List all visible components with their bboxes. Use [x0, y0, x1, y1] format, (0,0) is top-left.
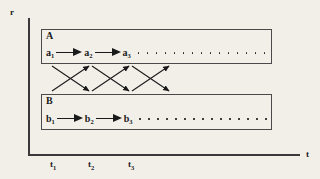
- arrow-b1-b2-icon: [57, 114, 83, 124]
- horizontal-axis-label: t: [306, 150, 309, 159]
- tick-label-t1: t1: [50, 160, 56, 171]
- arrow-a1-a2-icon: [56, 48, 82, 58]
- node-b3: b3: [124, 114, 133, 124]
- cross-link-a1-b2: [52, 66, 89, 91]
- ellipsis-dot: [165, 52, 167, 54]
- ellipsis-dot: [237, 52, 239, 54]
- ellipsis-dot: [192, 52, 194, 54]
- cross-link-b1-a2: [52, 66, 89, 91]
- vertical-axis-label: r: [10, 8, 14, 17]
- box-b-ellipsis: [139, 118, 274, 120]
- ellipsis-dot: [255, 52, 257, 54]
- node-a1: a1: [46, 48, 54, 58]
- box-b: B b1 b2 b3: [41, 94, 272, 130]
- cross-link-b3-a4: [132, 66, 169, 91]
- ellipsis-dot: [238, 118, 240, 120]
- ellipsis-dot: [147, 52, 149, 54]
- cross-links-group: [52, 66, 169, 91]
- ellipsis-dot: [211, 118, 213, 120]
- ellipsis-dot: [148, 118, 150, 120]
- ellipsis-dot: [264, 52, 266, 54]
- cross-link-a3-b4: [132, 66, 169, 91]
- ellipsis-dot: [256, 118, 258, 120]
- ellipsis-dot: [138, 52, 140, 54]
- cross-links-layer: [0, 0, 320, 179]
- ellipsis-dot: [210, 52, 212, 54]
- tick-label-t3: t3: [128, 160, 134, 171]
- horizontal-axis: [28, 154, 300, 156]
- ellipsis-dot: [166, 118, 168, 120]
- vertical-axis: [28, 18, 30, 156]
- ellipsis-dot: [265, 118, 267, 120]
- ellipsis-dot: [201, 52, 203, 54]
- ellipsis-dot: [219, 52, 221, 54]
- ellipsis-dot: [220, 118, 222, 120]
- box-b-title: B: [46, 96, 53, 106]
- box-b-sequence: b1 b2 b3: [46, 112, 274, 126]
- box-a-title: A: [46, 31, 53, 41]
- arrow-a2-a3-icon: [95, 48, 121, 58]
- node-b2: b2: [85, 114, 94, 124]
- ellipsis-dot: [202, 118, 204, 120]
- ellipsis-dot: [174, 52, 176, 54]
- cross-link-a2-b3: [92, 66, 129, 91]
- ellipsis-dot: [247, 118, 249, 120]
- cross-link-b2-a3: [92, 66, 129, 91]
- node-b1: b1: [46, 114, 55, 124]
- tick-label-t2: t2: [88, 160, 94, 171]
- ellipsis-dot: [157, 118, 159, 120]
- ellipsis-dot: [229, 118, 231, 120]
- ellipsis-dot: [246, 52, 248, 54]
- box-a-ellipsis: [138, 52, 273, 54]
- box-a: A a1 a2 a3: [41, 29, 272, 64]
- box-a-sequence: a1 a2 a3: [46, 46, 273, 60]
- node-a2: a2: [84, 48, 92, 58]
- ellipsis-dot: [156, 52, 158, 54]
- ellipsis-dot: [175, 118, 177, 120]
- ellipsis-dot: [228, 52, 230, 54]
- ellipsis-dot: [184, 118, 186, 120]
- ellipsis-dot: [193, 118, 195, 120]
- arrow-b2-b3-icon: [96, 114, 122, 124]
- ellipsis-dot: [139, 118, 141, 120]
- figure-canvas: r t A a1 a2 a3 B b1 b2 b3: [0, 0, 320, 179]
- ellipsis-dot: [183, 52, 185, 54]
- node-a3: a3: [123, 48, 131, 58]
